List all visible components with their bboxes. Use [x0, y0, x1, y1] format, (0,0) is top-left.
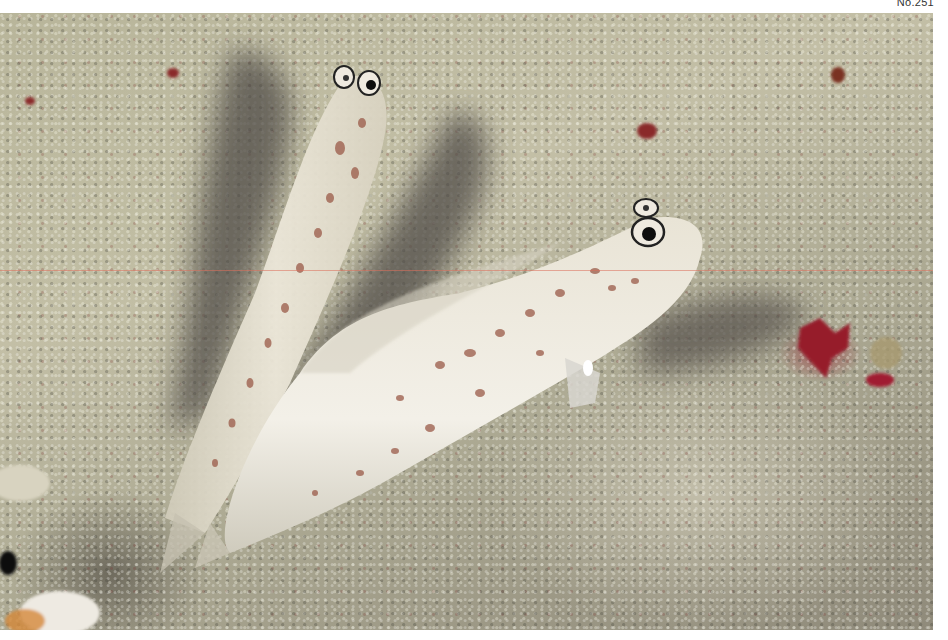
- scan-line-artifact: [0, 270, 933, 271]
- photograph: [0, 13, 933, 630]
- right-goby-eyes: [632, 199, 664, 246]
- rubble: [0, 465, 100, 630]
- sponge: [870, 337, 902, 369]
- page-number: No.251: [897, 0, 934, 8]
- goby-scene: [0, 13, 933, 630]
